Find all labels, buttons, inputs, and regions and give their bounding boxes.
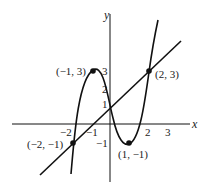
label-point-2-3: (2, 3) [155,68,179,81]
point-neg2-neg1 [70,140,76,146]
graph-diagram: x y −2 −1 2 3 3 2 1 −1 (−1, 3) (2, 3) (−… [0,0,203,189]
y-axis-label: y [103,8,110,22]
point-2-3 [146,68,152,74]
y-tick-neg1: −1 [96,137,108,149]
x-axis-label: x [191,117,198,131]
x-tick-3: 3 [165,126,171,138]
label-point-1-neg1: (1, −1) [118,148,148,161]
x-tick-2: 2 [145,126,151,138]
label-point-neg1-3: (−1, 3) [56,65,86,78]
point-neg1-3 [90,68,96,74]
y-tick-3: 3 [102,65,108,77]
x-tick-neg2: −2 [60,126,72,138]
label-point-neg2-neg1: (−2, −1) [27,138,64,151]
y-tick-1: 1 [102,98,108,110]
point-1-neg1 [126,140,132,146]
